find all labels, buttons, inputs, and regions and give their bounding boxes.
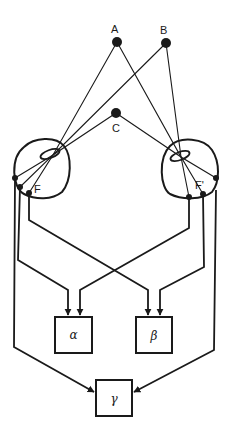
ray-B-right [166, 43, 189, 197]
path-right-middle-to-beta [160, 194, 204, 315]
box-gamma: γ [96, 380, 132, 416]
left-eye-lens [39, 147, 61, 161]
left-eye-globe [14, 139, 70, 198]
left-retina-point-2 [17, 184, 23, 190]
left-retina-point-fovea [26, 190, 32, 196]
box-beta-label: β [150, 329, 158, 343]
label-fovea-right: F' [195, 179, 204, 191]
neural-pathways [14, 178, 216, 392]
ray-A-left [20, 42, 117, 187]
retina-points [12, 175, 219, 200]
right-retina-point-3 [213, 175, 219, 181]
point-B [161, 38, 171, 48]
path-left-middle-to-alpha [18, 187, 68, 315]
right-retina-point-1 [186, 194, 192, 200]
right-eye [162, 140, 218, 199]
label-B: B [160, 24, 167, 36]
left-eye [14, 139, 70, 198]
box-alpha-label: α [69, 328, 77, 342]
label-C: C [112, 122, 120, 134]
path-left-outer-to-gamma [14, 178, 94, 392]
right-retina-point-fovea [200, 191, 206, 197]
right-eye-globe [162, 140, 218, 199]
ray-A-right [117, 42, 216, 178]
box-beta: β [136, 317, 172, 353]
binocular-diagram: A B C F F' α β γ [0, 0, 238, 431]
box-gamma-label: γ [110, 392, 118, 406]
point-A [112, 37, 122, 47]
point-C [111, 108, 121, 118]
label-A: A [111, 23, 119, 35]
box-alpha: α [55, 317, 92, 353]
light-rays [15, 42, 216, 197]
left-retina-point-1 [12, 175, 18, 181]
ray-B-left [15, 43, 166, 178]
path-right-inner-to-alpha [80, 197, 189, 315]
label-fovea-left: F [34, 183, 41, 195]
object-points [111, 37, 171, 118]
path-left-inner-to-beta [29, 193, 148, 315]
